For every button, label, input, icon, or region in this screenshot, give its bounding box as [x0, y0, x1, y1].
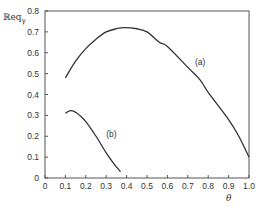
y-axis-title-main: ℝeq [3, 12, 22, 22]
x-tick-label: 0.5 [141, 181, 153, 191]
y-tick-label: 0.5 [27, 69, 39, 79]
series-b-label: (b) [106, 129, 117, 139]
y-axis-title: ℝeqγ [3, 12, 26, 25]
line-chart: 00.10.20.30.40.50.60.70.8 00.10.20.30.40… [0, 0, 263, 210]
y-tick-label: 0.2 [27, 131, 39, 141]
y-tick-label: 0.1 [27, 152, 39, 162]
x-tick-label: 0.6 [161, 181, 173, 191]
x-axis-title: θ [226, 193, 232, 203]
x-tick-label: 0.2 [80, 181, 92, 191]
x-tick-label: 0.3 [100, 181, 112, 191]
y-tick-label: 0.4 [27, 90, 39, 100]
series-a-label: (a) [195, 57, 206, 67]
plot-frame [45, 11, 249, 178]
y-tick-label: 0.8 [27, 6, 39, 16]
x-tick-label: 0.1 [59, 181, 71, 191]
y-tick-label: 0.3 [27, 110, 39, 120]
y-tick-label: 0.6 [27, 48, 39, 58]
data-curves [65, 28, 249, 172]
x-tick-label: 0.4 [121, 181, 133, 191]
y-axis-title-sub: γ [22, 17, 26, 25]
x-axis-ticks: 00.10.20.30.40.50.60.70.80.91.0 [43, 175, 256, 191]
x-tick-label: 0.8 [202, 181, 214, 191]
y-tick-label: 0.7 [27, 27, 39, 37]
x-tick-label: 0.7 [182, 181, 194, 191]
series-b-curve [65, 111, 120, 172]
series-a-curve [65, 28, 249, 157]
x-tick-label: 0 [43, 181, 48, 191]
x-tick-label: 0.9 [223, 181, 235, 191]
x-tick-label: 1.0 [243, 181, 255, 191]
y-tick-label: 0 [34, 173, 39, 183]
plot-border [45, 11, 249, 178]
